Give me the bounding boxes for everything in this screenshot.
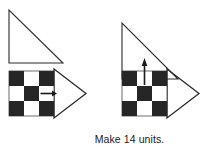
instruction-caption: Make 14 units. <box>0 133 210 146</box>
checker-cell-dark <box>152 71 167 86</box>
checker-cell-dark <box>9 71 24 86</box>
right-right-triangle-piece <box>122 23 178 79</box>
left-figure-group <box>9 10 86 118</box>
checker-cell-dark <box>137 86 152 101</box>
checker-cell-dark <box>24 86 39 101</box>
checker-cell-light <box>24 71 39 86</box>
left-right-triangle-piece <box>9 10 63 63</box>
instruction-caption-text: Make 14 units. <box>95 133 165 146</box>
quilt-units-illustration <box>0 0 210 151</box>
left-right-pointing-triangle-outline <box>54 69 86 118</box>
checker-cell-dark <box>9 101 24 116</box>
checker-cell-light <box>122 86 137 101</box>
checker-cell-light <box>9 86 24 101</box>
diagram-stage: Make 14 units. <box>0 0 210 151</box>
checker-cell-dark <box>39 101 54 116</box>
checker-cell-dark <box>39 71 54 86</box>
checker-cell-dark <box>152 101 167 116</box>
checker-cell-dark <box>122 101 137 116</box>
checker-cell-light <box>24 101 39 116</box>
checker-cell-dark <box>122 71 137 86</box>
checker-cell-light <box>152 86 167 101</box>
right-right-pointing-triangle-outline <box>167 69 199 118</box>
right-figure-group <box>122 23 199 118</box>
checker-cell-light <box>137 101 152 116</box>
